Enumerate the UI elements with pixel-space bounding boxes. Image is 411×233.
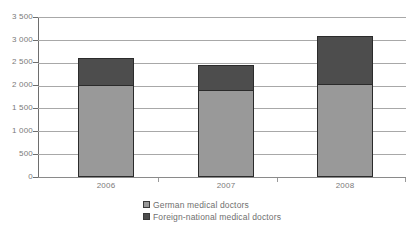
stacked-bar-chart: 3 500 3 000 2 500 2 000 1 500 1 000 500 … bbox=[0, 0, 411, 233]
bar-segment-foreign-2006 bbox=[78, 58, 134, 86]
bar-segment-foreign-2008 bbox=[317, 36, 373, 85]
y-axis-label-0: 0 bbox=[1, 173, 33, 181]
x-axis-label-2006: 2006 bbox=[78, 181, 134, 190]
y-axis-label-3000: 3 000 bbox=[1, 36, 33, 44]
legend-label-foreign: Foreign-national medical doctors bbox=[153, 212, 281, 222]
bar-group-2007 bbox=[198, 17, 254, 177]
plot-area bbox=[38, 17, 406, 177]
chart-legend: German medical doctors Foreign-national … bbox=[143, 199, 281, 223]
x-axis-tick-left bbox=[158, 178, 159, 182]
y-axis-label-2000: 2 000 bbox=[1, 81, 33, 89]
y-axis-labels: 3 500 3 000 2 500 2 000 1 500 1 000 500 … bbox=[0, 0, 33, 200]
x-axis-tick-end bbox=[405, 178, 406, 182]
y-axis-label-3500: 3 500 bbox=[1, 13, 33, 21]
bar-segment-german-2006 bbox=[78, 85, 134, 177]
y-axis-label-2500: 2 500 bbox=[1, 58, 33, 66]
legend-item-german: German medical doctors bbox=[143, 199, 281, 210]
x-axis-tick-right bbox=[277, 178, 278, 182]
x-axis-label-2008: 2008 bbox=[317, 181, 373, 190]
bar-group-2008 bbox=[317, 17, 373, 177]
y-axis-label-1000: 1 000 bbox=[1, 127, 33, 135]
legend-label-german: German medical doctors bbox=[153, 200, 249, 210]
x-axis-label-2007: 2007 bbox=[198, 181, 254, 190]
y-axis-label-500: 500 bbox=[1, 150, 33, 158]
x-axis-baseline bbox=[38, 177, 406, 178]
legend-swatch-foreign bbox=[143, 213, 150, 220]
legend-item-foreign: Foreign-national medical doctors bbox=[143, 211, 281, 222]
legend-swatch-german bbox=[143, 201, 150, 208]
bar-segment-german-2008 bbox=[317, 84, 373, 177]
bar-group-2006 bbox=[78, 17, 134, 177]
bar-segment-foreign-2007 bbox=[198, 65, 254, 91]
bar-segment-german-2007 bbox=[198, 90, 254, 177]
y-axis-label-1500: 1 500 bbox=[1, 104, 33, 112]
